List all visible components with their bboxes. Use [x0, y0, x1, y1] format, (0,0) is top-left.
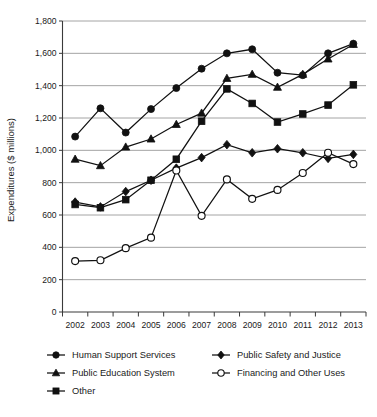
data-point-marker: [198, 212, 205, 219]
x-tick-label: 2004: [116, 320, 135, 330]
data-point-marker: [173, 156, 180, 163]
data-point-marker: [218, 370, 224, 376]
chart-container: 02004006008001,0001,2001,4001,6001,800 2…: [0, 0, 377, 417]
x-tick-label: 2008: [217, 320, 236, 330]
data-point-marker: [249, 195, 256, 202]
data-point-marker: [122, 129, 129, 136]
y-tick-label: 600: [42, 210, 57, 220]
y-axis-title: Expenditures ($ millions): [5, 118, 16, 222]
x-tick-label: 2013: [344, 320, 363, 330]
legend-item-label: Public Education System: [72, 368, 175, 378]
y-tick-label: 1,800: [35, 16, 57, 26]
data-point-marker: [53, 388, 59, 394]
x-tick-label: 2003: [91, 320, 110, 330]
y-tick-label: 1,400: [35, 81, 57, 91]
y-tick-label: 1,000: [35, 145, 57, 155]
x-tick-label: 2011: [294, 320, 313, 330]
data-point-marker: [274, 69, 281, 76]
data-point-marker: [148, 106, 155, 113]
data-point-marker: [249, 46, 256, 53]
data-point-marker: [274, 186, 281, 193]
y-tick-label: 1,600: [35, 48, 57, 58]
data-point-marker: [224, 86, 231, 93]
x-tick-label: 2012: [319, 320, 338, 330]
data-point-marker: [122, 245, 129, 252]
data-point-marker: [299, 169, 306, 176]
legend-item-label: Public Safety and Justice: [237, 350, 341, 360]
expenditures-line-chart: 02004006008001,0001,2001,4001,6001,800 2…: [0, 0, 377, 417]
y-tick-label: 1,200: [35, 113, 57, 123]
y-tick-label: 0: [52, 307, 57, 317]
data-point-marker: [249, 100, 256, 107]
x-tick-label: 2006: [167, 320, 186, 330]
data-point-marker: [325, 102, 332, 109]
data-point-marker: [299, 111, 306, 118]
y-tick-label: 200: [42, 275, 57, 285]
data-point-marker: [53, 352, 59, 358]
x-tick-label: 2009: [243, 320, 262, 330]
data-point-marker: [72, 258, 79, 265]
data-point-marker: [198, 118, 205, 125]
legend-item-label: Financing and Other Uses: [237, 368, 345, 378]
data-point-marker: [274, 119, 281, 126]
y-tick-label: 800: [42, 178, 57, 188]
data-point-marker: [223, 176, 230, 183]
data-point-marker: [198, 65, 205, 72]
x-tick-label: 2005: [141, 320, 160, 330]
x-tick-label: 2002: [66, 320, 85, 330]
data-point-marker: [122, 196, 129, 203]
data-point-marker: [350, 161, 357, 168]
data-point-marker: [350, 82, 357, 89]
data-point-marker: [148, 234, 155, 241]
data-point-marker: [325, 149, 332, 156]
data-point-marker: [223, 50, 230, 57]
data-point-marker: [173, 85, 180, 92]
y-axis-title-text: Expenditures ($ millions): [5, 118, 16, 222]
data-point-marker: [97, 105, 104, 112]
data-point-marker: [97, 257, 104, 264]
x-tick-label: 2007: [192, 320, 211, 330]
y-tick-label: 400: [42, 242, 57, 252]
data-point-marker: [72, 133, 79, 140]
x-tick-label: 2010: [268, 320, 287, 330]
legend-item-label: Other: [72, 386, 95, 396]
data-point-marker: [173, 167, 180, 174]
legend-item-label: Human Support Services: [72, 350, 176, 360]
